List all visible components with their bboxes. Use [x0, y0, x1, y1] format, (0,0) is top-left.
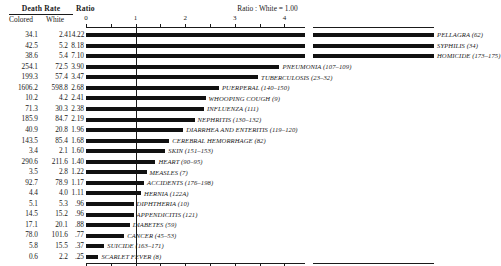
bar-segment — [86, 54, 305, 58]
cell-colored-rate: 14.5 — [4, 209, 38, 220]
bar-segment-after-break — [313, 33, 434, 37]
cell-ratio: 1.40 — [68, 157, 84, 168]
axis-tick-label: 4 — [283, 14, 287, 22]
cell-white-rate: 5.2 — [40, 41, 68, 52]
bar-label-cause: ACCIDENTS (176–198) — [147, 179, 213, 187]
bar-segment — [86, 44, 305, 48]
cell-white-rate: 101.6 — [40, 230, 68, 241]
table-row: 5.15.3.96DIPHTHERIA (10) — [0, 199, 439, 210]
cell-ratio: .96 — [68, 209, 84, 220]
bar — [86, 234, 124, 238]
bar-segment — [86, 33, 305, 37]
cell-ratio: 1.17 — [68, 178, 84, 189]
cell-colored-rate: 10.2 — [4, 93, 38, 104]
bar-label-cause: CANCER (45–53) — [127, 232, 176, 240]
table-row: 0.62.2.25SCARLET FEVER (8) — [0, 252, 439, 263]
table-row: 3.42.11.60SKIN (151–153) — [0, 146, 439, 157]
table-row: 4.44.01.11HERNIA (122A) — [0, 188, 439, 199]
cell-colored-rate: 78.0 — [4, 230, 38, 241]
cell-white-rate: 15.2 — [40, 209, 68, 220]
bar — [86, 213, 134, 217]
bar-label-cause: NEPHRITIS (130–132) — [198, 116, 262, 124]
bar — [86, 244, 104, 248]
cell-ratio: 14.22 — [68, 30, 84, 41]
cell-colored-rate: 4.4 — [4, 188, 38, 199]
bar — [86, 139, 169, 143]
cell-colored-rate: 92.7 — [4, 178, 38, 189]
bar-label-cause: APPENDICITIS (121) — [137, 211, 198, 219]
cell-colored-rate: 199.3 — [4, 72, 38, 83]
bar — [86, 75, 258, 79]
cell-ratio: .77 — [68, 230, 84, 241]
cell-colored-rate: 34.1 — [4, 30, 38, 41]
cell-colored-rate: 40.9 — [4, 125, 38, 136]
table-row: 34.12.414.22PELLAGRA (62) — [0, 30, 439, 41]
cell-white-rate: 2.1 — [40, 146, 68, 157]
axis-rule-top — [313, 27, 434, 28]
bar-label-cause: HEART (90–95) — [158, 158, 202, 166]
cell-colored-rate: 1606.2 — [4, 83, 38, 94]
cell-white-rate: 20.1 — [40, 220, 68, 231]
axis-rule-bottom — [313, 263, 434, 264]
table-row: 1606.2598.82.68PUERPERAL (140–150) — [0, 83, 439, 94]
bar-label-cause: TUBERCULOSIS (23–32) — [261, 74, 332, 82]
bar — [86, 86, 219, 90]
cell-ratio: 1.22 — [68, 167, 84, 178]
axis-tick — [210, 24, 211, 27]
table-row: 10.24.22.41WHOOPING COUGH (9) — [0, 93, 439, 104]
bar — [86, 160, 155, 164]
cell-white-rate: 5.4 — [40, 51, 68, 62]
bar — [86, 128, 183, 132]
cell-colored-rate: 290.6 — [4, 157, 38, 168]
bar — [86, 118, 195, 122]
bar — [86, 96, 206, 100]
cell-colored-rate: 5.8 — [4, 241, 38, 252]
table-row: 3.52.81.22MEASLES (7) — [0, 167, 439, 178]
cell-colored-rate: 143.5 — [4, 136, 38, 147]
cell-ratio: .96 — [68, 199, 84, 210]
cell-ratio: 2.68 — [68, 83, 84, 94]
cell-colored-rate: 5.1 — [4, 199, 38, 210]
bar-label-cause: WHOOPING COUGH (9) — [209, 95, 280, 103]
bar-segment-after-break — [313, 44, 434, 48]
chart-subtitle: Ratio : White = 1.00 — [0, 4, 439, 13]
axis-tick-label: 2 — [183, 14, 187, 22]
cell-white-rate: 72.5 — [40, 62, 68, 73]
cell-white-rate: 2.8 — [40, 167, 68, 178]
cell-colored-rate: 254.1 — [4, 62, 38, 73]
cell-white-rate: 20.8 — [40, 125, 68, 136]
bar-label-cause: CEREBRAL HEMORRHAGE (82) — [172, 137, 265, 145]
cell-ratio: 3.90 — [68, 62, 84, 73]
cell-white-rate: 4.2 — [40, 93, 68, 104]
bar-label-cause: HERNIA (122A) — [144, 190, 189, 198]
bar-label-cause: PELLAGRA (62) — [437, 31, 483, 39]
table-row: 14.515.2.96APPENDICITIS (121) — [0, 209, 439, 220]
table-row: 254.172.53.90PNEUMONIA (107–109) — [0, 62, 439, 73]
column-header-colored: Colored — [4, 15, 38, 24]
table-row: 38.65.47.10HOMICIDE (173–175) — [0, 51, 439, 62]
cell-white-rate: 5.3 — [40, 199, 68, 210]
cell-ratio: .88 — [68, 220, 84, 231]
axis-tick — [185, 24, 186, 27]
cell-colored-rate: 3.4 — [4, 146, 38, 157]
bar-label-cause: MEASLES (7) — [150, 169, 188, 177]
bar — [86, 223, 130, 227]
table-row: 199.357.43.47TUBERCULOSIS (23–32) — [0, 72, 439, 83]
bar-segment-after-break — [313, 54, 434, 58]
cell-ratio: 2.19 — [68, 114, 84, 125]
axis-tick — [284, 24, 285, 27]
cell-white-rate: 85.4 — [40, 136, 68, 147]
axis-rule-top — [86, 27, 305, 28]
bar — [86, 202, 134, 206]
table-row: 290.6211.61.40HEART (90–95) — [0, 157, 439, 168]
bar — [86, 107, 204, 111]
column-header-white: White — [40, 15, 70, 24]
bar — [86, 255, 98, 259]
bar — [86, 170, 147, 174]
cell-ratio: 2.38 — [68, 104, 84, 115]
axis-tick-label: 1 — [134, 14, 138, 22]
cell-white-rate: 598.8 — [40, 83, 68, 94]
bar-label-cause: SYPHILIS (34) — [437, 42, 478, 50]
cell-ratio: 8.18 — [68, 41, 84, 52]
